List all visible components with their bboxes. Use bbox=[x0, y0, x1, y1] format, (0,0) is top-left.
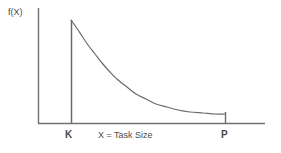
x-axis-label: X = Task Size bbox=[98, 131, 153, 140]
y-axis-label: f(X) bbox=[8, 8, 23, 17]
x-tick-label-p: P bbox=[221, 130, 228, 140]
x-tick-label-k: K bbox=[65, 130, 72, 140]
